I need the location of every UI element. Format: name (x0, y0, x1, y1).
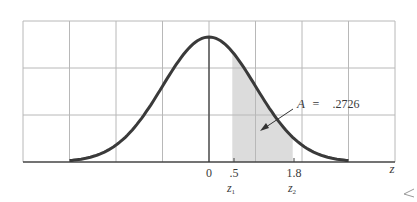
annotation-var: A (296, 96, 305, 111)
annotation-eq: = (313, 97, 320, 111)
tick-label-z2: 1.8 (287, 166, 302, 180)
tick-label-zero: 0 (206, 166, 212, 180)
z2-label: z2 (287, 181, 297, 196)
tick-label-z1: .5 (230, 166, 239, 180)
page-mark-icon (404, 189, 414, 197)
z-axis-label: z (388, 161, 394, 176)
annotation-value: .2726 (333, 97, 360, 111)
z1-label: z1 (226, 181, 236, 196)
normal-distribution-chart: 0 .5 1.8 z1 z2 z A = .2726 (0, 0, 417, 202)
